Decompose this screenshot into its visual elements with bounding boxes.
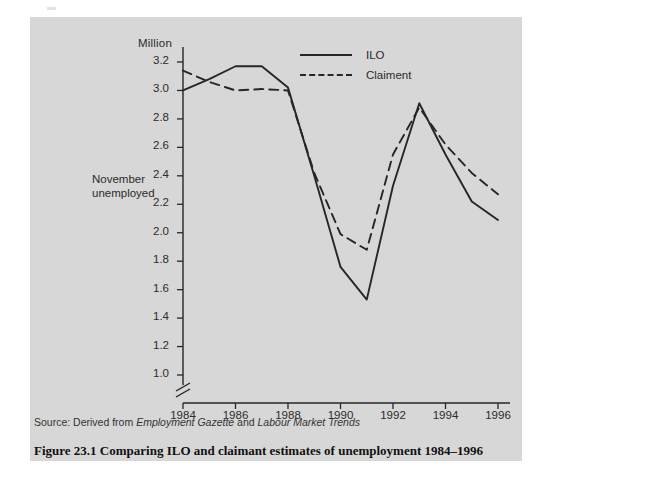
figure-caption: Figure 23.1 Comparing ILO and claimant e… — [34, 443, 483, 459]
axis-break-icon — [176, 383, 190, 397]
y-tick-label: 3.0 — [139, 82, 169, 94]
legend-label-claiment: Claiment — [366, 69, 411, 81]
source-note: Source: Derived from Employment Gazette … — [34, 416, 360, 428]
x-tick-label: 1992 — [373, 409, 413, 421]
source-publication-1: Employment Gazette — [136, 416, 234, 428]
y-tick-label: 2.6 — [139, 139, 169, 151]
x-tick-label: 1996 — [478, 409, 518, 421]
y-tick-label: 2.8 — [139, 111, 169, 123]
y-tick-label: 1.4 — [139, 310, 169, 322]
legend-swatch-dashed-icon — [300, 70, 352, 80]
line-chart-svg — [30, 17, 522, 461]
legend-item-ilo: ILO — [300, 45, 411, 65]
x-tick-label: 1994 — [426, 409, 466, 421]
page-speck — [47, 7, 56, 10]
y-tick-label: 1.2 — [139, 339, 169, 351]
source-publication-2: Labour Market Trends — [258, 416, 361, 428]
legend-label-ilo: ILO — [366, 49, 385, 61]
plot-area — [30, 17, 522, 461]
y-tick-label: 1.0 — [139, 367, 169, 379]
y-tick-label: 1.8 — [139, 253, 169, 265]
source-prefix: Source: Derived from — [34, 416, 136, 428]
chart-panel: Million November unemployed ILO Claiment… — [30, 17, 522, 461]
y-tick-label: 2.2 — [139, 196, 169, 208]
y-tick-label: 1.6 — [139, 282, 169, 294]
y-tick-label: 2.4 — [139, 168, 169, 180]
source-conjunction: and — [234, 416, 257, 428]
y-tick-label: 2.0 — [139, 225, 169, 237]
series-line-claiment — [183, 71, 498, 250]
legend-swatch-solid-icon — [300, 50, 352, 60]
y-tick-label: 3.2 — [139, 54, 169, 66]
legend-item-claiment: Claiment — [300, 65, 411, 85]
series-line-ilo — [183, 66, 498, 299]
chart-legend: ILO Claiment — [300, 45, 411, 85]
figure-container: Million November unemployed ILO Claiment… — [0, 0, 652, 481]
y-axis-unit-label: Million — [138, 37, 172, 49]
